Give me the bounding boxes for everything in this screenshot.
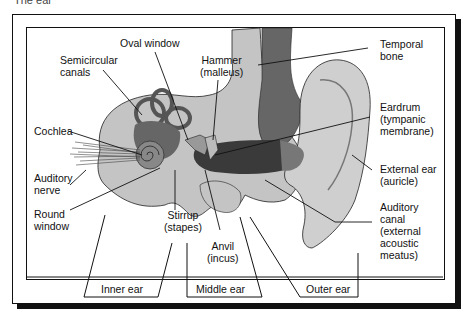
label-round-window: Round window xyxy=(34,208,69,232)
label-auditory-nerve: Auditory nerve xyxy=(34,172,73,196)
label-external-ear: External ear (auricle) xyxy=(380,163,437,187)
section-label-outer-ear: Outer ear xyxy=(306,283,350,295)
label-auditory-canal: Auditory canal (external acoustic meatus… xyxy=(380,201,421,261)
section-label-inner-ear: Inner ear xyxy=(101,283,143,295)
label-eardrum: Eardrum (tympanic membrane) xyxy=(380,101,434,137)
label-hammer: Hammer (malleus) xyxy=(200,54,243,78)
label-cochlea: Cochlea xyxy=(34,125,73,137)
label-temporal-bone: Temporal bone xyxy=(380,38,423,62)
section-label-middle-ear: Middle ear xyxy=(196,283,245,295)
label-stirrup: Stirrup (stapes) xyxy=(164,209,202,233)
temporal-vessel-shape xyxy=(258,28,301,147)
label-anvil: Anvil (incus) xyxy=(207,240,239,264)
label-semicircular-canals: Semicircular canals xyxy=(60,54,118,78)
label-oval-window: Oval window xyxy=(120,37,180,49)
cochlea-shape xyxy=(136,141,164,169)
